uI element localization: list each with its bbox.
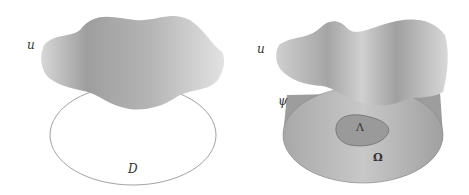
left-panel-free-surface: u D (0, 0, 235, 195)
domain-label-D: D (128, 162, 138, 176)
right-panel-obstacle-problem: u ψ Λ Ω (235, 0, 469, 195)
domain-label-Omega: Ω (373, 151, 383, 164)
surface-label-u: u (27, 38, 35, 52)
obstacle-label-psi: ψ (278, 94, 287, 108)
free-surface-diagram (0, 0, 235, 195)
surface-label-u: u (257, 42, 265, 56)
surface-u-touching-obstacle (276, 20, 448, 106)
contact-set-label-Lambda: Λ (356, 121, 364, 134)
obstacle-problem-diagram (235, 0, 469, 195)
surface-u (41, 16, 224, 110)
